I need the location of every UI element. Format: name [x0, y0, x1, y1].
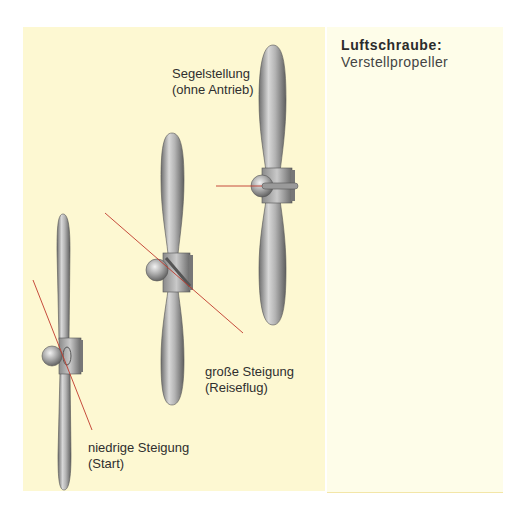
- spinner-dome-icon: [42, 346, 62, 366]
- label-feathered-line1: Segelstellung: [172, 66, 254, 82]
- caption-panel: Luftschraube: Verstellpropeller: [327, 27, 503, 493]
- blade-icon: [57, 214, 70, 340]
- blade-icon: [259, 45, 286, 172]
- propeller-low-pitch: [33, 214, 92, 490]
- label-low-pitch: niedrige Steigung (Start): [88, 440, 189, 472]
- caption-title: Luftschraube:: [341, 37, 442, 53]
- blade-icon: [259, 200, 286, 325]
- label-high-pitch: große Steigung (Reiseflug): [205, 364, 294, 396]
- label-high-pitch-line1: große Steigung: [205, 364, 294, 380]
- label-high-pitch-line2: (Reiseflug): [205, 380, 294, 396]
- label-feathered: Segelstellung (ohne Antrieb): [172, 66, 254, 98]
- blade-icon: [161, 133, 184, 254]
- label-feathered-line2: (ohne Antrieb): [172, 82, 254, 98]
- spinner-dome-icon: [146, 259, 168, 281]
- blade-icon: [161, 290, 184, 405]
- caption-subtitle: Verstellpropeller: [341, 54, 448, 70]
- label-low-pitch-line2: (Start): [88, 456, 189, 472]
- label-low-pitch-line1: niedrige Steigung: [88, 440, 189, 456]
- blade-icon: [58, 372, 71, 490]
